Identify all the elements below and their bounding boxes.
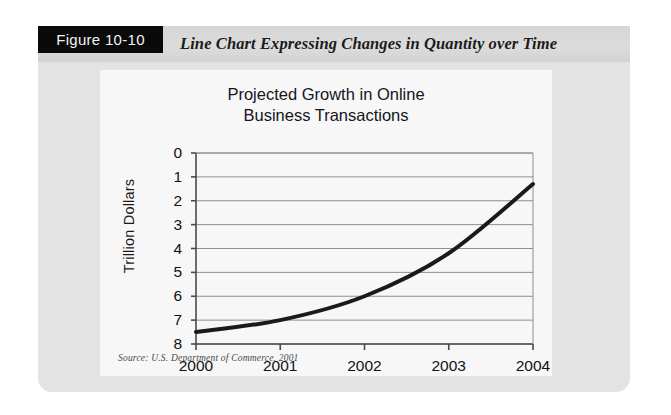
figure-caption: Line Chart Expressing Changes in Quantit… xyxy=(180,28,620,60)
figure-header-band: Figure 10-10 Line Chart Expressing Chang… xyxy=(38,26,630,62)
chart-card: Projected Growth in Online Business Tran… xyxy=(100,70,552,376)
line-chart-graphic xyxy=(100,70,552,376)
plot-area: Trillion Dollars 876543210 2000200120022… xyxy=(100,70,552,376)
source-note: Source: U.S. Department of Commerce, 200… xyxy=(118,353,299,363)
data-series-line xyxy=(196,184,533,332)
figure-number-tab: Figure 10-10 xyxy=(38,26,163,53)
gridlines xyxy=(196,153,533,344)
figure-panel: Figure 10-10 Line Chart Expressing Chang… xyxy=(38,26,630,392)
